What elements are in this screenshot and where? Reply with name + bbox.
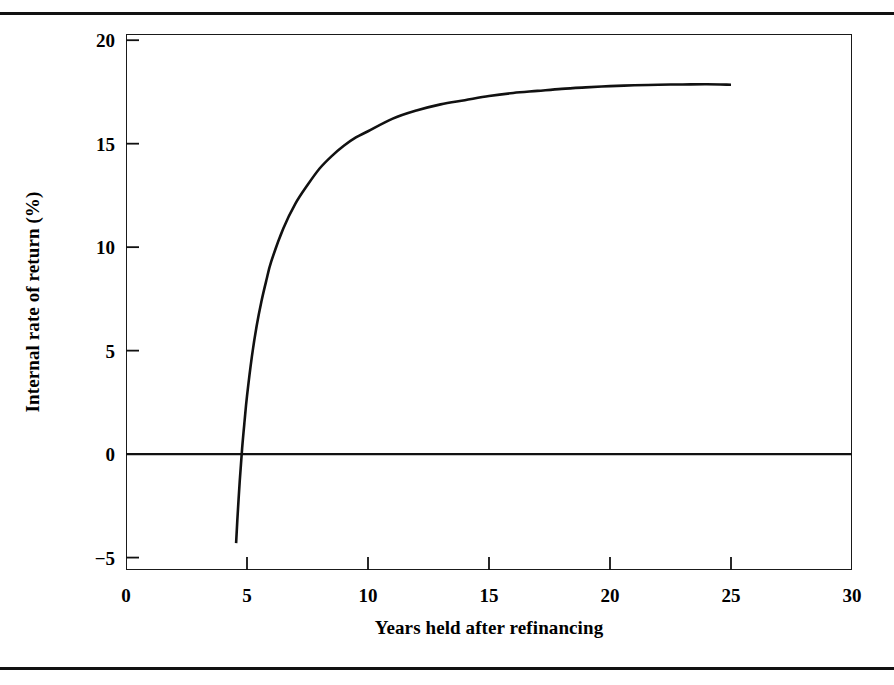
y-axis-title: Internal rate of return (%) bbox=[20, 34, 46, 570]
bottom-rule bbox=[0, 667, 894, 670]
y-tick-label: 15 bbox=[96, 134, 126, 153]
plot-area: −505101520 051015202530 bbox=[126, 34, 852, 570]
figure-container: Internal rate of return (%) −505101520 0… bbox=[0, 0, 894, 685]
y-tick-label: 10 bbox=[96, 238, 126, 257]
x-tick-label: 15 bbox=[480, 586, 499, 605]
x-tick-label: 25 bbox=[722, 586, 741, 605]
y-tick-label: 5 bbox=[106, 341, 127, 360]
y-axis-title-text: Internal rate of return (%) bbox=[22, 192, 44, 413]
x-tick-label: 20 bbox=[601, 586, 620, 605]
chart-canvas bbox=[126, 34, 852, 570]
data-series-line bbox=[236, 84, 731, 543]
y-tick-label: 20 bbox=[96, 31, 126, 50]
top-rule bbox=[0, 12, 894, 15]
x-axis-title: Years held after refinancing bbox=[126, 617, 852, 639]
y-tick-label: 0 bbox=[106, 445, 127, 464]
x-tick-label: 10 bbox=[359, 586, 378, 605]
x-tick-label: 30 bbox=[843, 586, 862, 605]
y-tick-label: −5 bbox=[95, 548, 126, 567]
x-tick-label: 0 bbox=[121, 586, 131, 605]
clipped-figure-title bbox=[0, 0, 894, 4]
x-tick-label: 5 bbox=[242, 586, 252, 605]
